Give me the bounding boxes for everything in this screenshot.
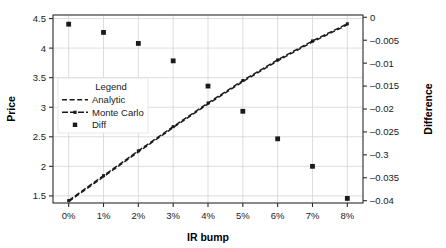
chart-legend: LegendAnalyticMonte CarloDiff <box>58 78 148 133</box>
monte-carlo-point <box>276 58 279 61</box>
price-vs-ir-bump-chart: 4.543.532.521.5 0–0.005–0.01–0.015–0.02–… <box>0 0 446 248</box>
monte-carlo-point <box>207 102 210 105</box>
left-tick-label: 2.5 <box>33 131 46 142</box>
monte-carlo-point <box>346 22 349 25</box>
diff-point <box>345 196 350 201</box>
diff-point <box>240 109 245 114</box>
x-tick-label: 5% <box>236 210 250 221</box>
left-tick-label: 2 <box>41 161 46 172</box>
right-tick-label: 0 <box>370 12 375 23</box>
left-tick-label: 4 <box>41 43 46 54</box>
x-tick-label: 2% <box>131 210 145 221</box>
right-tick-label: –0.04 <box>370 195 394 206</box>
right-tick-label: –0.02 <box>370 103 394 114</box>
monte-carlo-point <box>172 125 175 128</box>
diff-point <box>136 41 141 46</box>
monte-carlo-point <box>67 199 70 202</box>
diff-point <box>101 30 106 35</box>
right-tick-label: –0.3 <box>370 149 389 160</box>
right-tick-label: –0.025 <box>370 126 399 137</box>
monte-carlo-point <box>241 79 244 82</box>
legend-swatch-square <box>73 123 77 127</box>
diff-point <box>171 58 176 63</box>
left-tick-label: 3.5 <box>33 72 46 83</box>
right-tick-label: –0.015 <box>370 80 399 91</box>
legend-title: Legend <box>95 81 127 92</box>
right-tick-label: –0.035 <box>370 172 399 183</box>
x-tick-label: 3% <box>166 210 180 221</box>
monte-carlo-point <box>137 149 140 152</box>
legend-entry-label: Analytic <box>92 94 126 105</box>
diff-point <box>275 136 280 141</box>
chart-figure: 4.543.532.521.5 0–0.005–0.01–0.015–0.02–… <box>0 0 446 248</box>
y-axis-title-price: Price <box>5 96 17 122</box>
x-tick-label: 6% <box>271 210 285 221</box>
diff-point <box>206 84 211 89</box>
left-tick-label: 4.5 <box>33 13 46 24</box>
monte-carlo-point <box>102 174 105 177</box>
left-tick-label: 1.5 <box>33 190 46 201</box>
x-tick-label: 8% <box>340 210 354 221</box>
right-tick-label: –0.005 <box>370 35 399 46</box>
monte-carlo-point <box>311 39 314 42</box>
x-tick-label: 0% <box>62 210 76 221</box>
diff-point <box>66 22 71 27</box>
legend-entry-label: Diff <box>92 119 106 130</box>
legend-swatch-dot <box>73 111 76 114</box>
right-tick-label: –0.01 <box>370 58 394 69</box>
y-axis-title-difference: Difference <box>422 83 434 135</box>
x-tick-label: 1% <box>97 210 111 221</box>
x-tick-label: 7% <box>306 210 320 221</box>
left-tick-label: 3 <box>41 102 46 113</box>
legend-entry-label: Monte Carlo <box>92 107 144 118</box>
diff-point <box>310 164 315 169</box>
x-tick-label: 4% <box>201 210 215 221</box>
x-axis-title-ir-bump: IR bump <box>187 231 229 243</box>
